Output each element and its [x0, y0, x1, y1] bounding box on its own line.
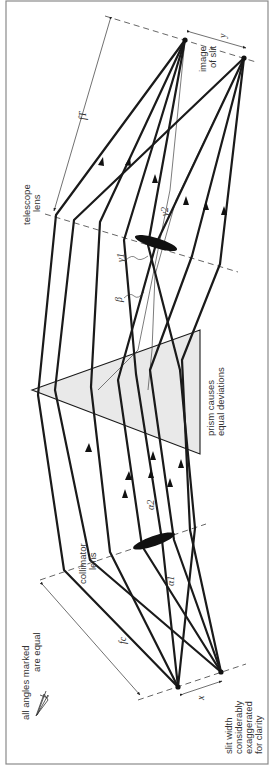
label-telescope-2: lens	[31, 194, 42, 212]
spectrometer-diagram: fT fc y x image of slit telescope lens p…	[0, 0, 275, 773]
label-gamma2: γ2	[159, 207, 170, 216]
label-prism-2: equal deviations	[215, 367, 226, 436]
label-y: y	[217, 33, 228, 39]
label-ft: fT	[77, 110, 88, 120]
label-gamma1: γ1	[115, 253, 126, 262]
label-fc: fc	[117, 636, 128, 644]
label-angles-2: are equal	[31, 632, 42, 672]
label-slit-4: for clarity	[253, 715, 264, 754]
image-point-d	[241, 55, 246, 60]
image-point-c	[182, 37, 187, 42]
slit-point-b	[218, 669, 223, 674]
label-alpha2: α2	[145, 500, 156, 510]
label-collimator-2: lens	[87, 552, 98, 570]
label-alpha1: α1	[165, 576, 176, 586]
label-image-of-slit-2: of slit	[207, 45, 218, 68]
slit-point-a	[175, 684, 180, 689]
label-angles-1: all angles marked	[20, 646, 31, 720]
label-beta: β	[113, 297, 124, 303]
label-x: x	[195, 695, 206, 701]
